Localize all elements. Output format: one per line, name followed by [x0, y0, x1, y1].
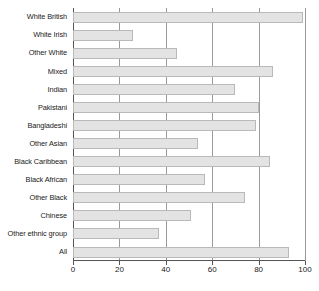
bar-row	[73, 62, 305, 80]
bar	[73, 247, 289, 258]
bar-row	[73, 171, 305, 189]
category-label: Other Black	[0, 189, 71, 207]
bar-chart: White British White Irish Other White Mi…	[0, 0, 319, 291]
bar-row	[73, 135, 305, 153]
bar	[73, 48, 177, 59]
category-label: All	[0, 243, 71, 261]
bar-row	[73, 80, 305, 98]
bar-row	[73, 207, 305, 225]
bar	[73, 120, 256, 131]
gridline	[305, 8, 306, 261]
bar	[73, 210, 191, 221]
bars-layer	[73, 8, 305, 261]
axis-tick-label: 0	[71, 266, 75, 274]
category-label: Other Asian	[0, 135, 71, 153]
bar	[73, 156, 270, 167]
category-label: Other ethnic group	[0, 225, 71, 243]
bar	[73, 84, 235, 95]
bar	[73, 102, 259, 113]
bar	[73, 30, 133, 41]
bar	[73, 12, 303, 23]
plot-area	[73, 8, 305, 261]
bar-row	[73, 98, 305, 116]
bar	[73, 228, 159, 239]
bar-row	[73, 189, 305, 207]
category-axis-labels: White British White Irish Other White Mi…	[0, 8, 71, 261]
bar-row	[73, 243, 305, 261]
bar-row	[73, 225, 305, 243]
category-label: White British	[0, 8, 71, 26]
category-label: Chinese	[0, 207, 71, 225]
bar-row	[73, 153, 305, 171]
axis-tick-label: 100	[298, 266, 311, 274]
axis-tick-label: 20	[115, 266, 124, 274]
category-label: Black Caribbean	[0, 153, 71, 171]
bar	[73, 192, 245, 203]
category-label: Bangladeshi	[0, 116, 71, 134]
category-label: Other White	[0, 44, 71, 62]
axis-tick-label: 80	[254, 266, 263, 274]
category-label: Mixed	[0, 62, 71, 80]
category-label: Indian	[0, 80, 71, 98]
bar-row	[73, 116, 305, 134]
bar	[73, 66, 273, 77]
axis-tick-label: 60	[208, 266, 217, 274]
bar-row	[73, 26, 305, 44]
category-label: Pakistani	[0, 98, 71, 116]
category-label: White Irish	[0, 26, 71, 44]
bar	[73, 174, 205, 185]
value-axis: 020406080100	[73, 261, 305, 291]
bar	[73, 138, 198, 149]
category-label: Black African	[0, 171, 71, 189]
bar-row	[73, 44, 305, 62]
bar-row	[73, 8, 305, 26]
axis-tick-label: 40	[161, 266, 170, 274]
